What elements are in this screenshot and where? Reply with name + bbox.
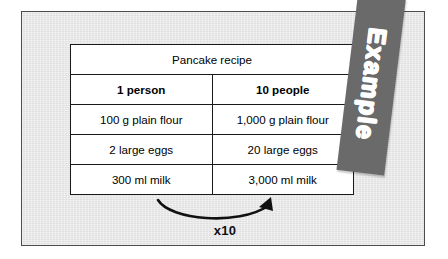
- table-row: 100 g plain flour 1,000 g plain flour: [71, 105, 354, 135]
- cell-eggs-1-person: 2 large eggs: [71, 135, 213, 165]
- table-row: 2 large eggs 20 large eggs: [71, 135, 354, 165]
- table-row-title: Pancake recipe: [71, 45, 354, 75]
- table-row-header: 1 person 10 people: [71, 75, 354, 105]
- scaling-annotation: x10: [140, 196, 310, 251]
- multiplier-label: x10: [140, 223, 310, 238]
- example-banner-label: Example: [350, 26, 393, 142]
- cell-flour-10-people: 1,000 g plain flour: [212, 105, 354, 135]
- table-row: 300 ml milk 3,000 ml milk: [71, 165, 354, 195]
- curved-arrow-right-icon: [140, 196, 310, 226]
- cell-flour-1-person: 100 g plain flour: [71, 105, 213, 135]
- table-title-cell: Pancake recipe: [71, 45, 354, 75]
- column-header-10-people: 10 people: [212, 75, 354, 105]
- cell-milk-1-person: 300 ml milk: [71, 165, 213, 195]
- cell-milk-10-people: 3,000 ml milk: [212, 165, 354, 195]
- scanned-page: Pancake recipe 1 person 10 people 100 g …: [0, 0, 448, 259]
- pancake-recipe-table: Pancake recipe 1 person 10 people 100 g …: [70, 44, 354, 195]
- column-header-1-person: 1 person: [71, 75, 213, 105]
- cell-eggs-10-people: 20 large eggs: [212, 135, 354, 165]
